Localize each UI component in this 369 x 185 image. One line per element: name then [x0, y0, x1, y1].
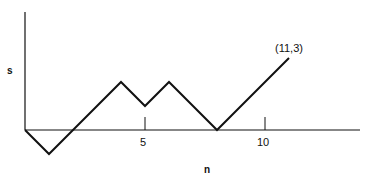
- y-axis-label: s: [7, 65, 13, 76]
- x-axis-label: n: [204, 164, 210, 175]
- endpoint-annotation: (11,3): [275, 42, 303, 54]
- chart-canvas: [0, 0, 369, 185]
- x-tick-label-10: 10: [257, 136, 269, 148]
- walk-line: [25, 58, 289, 154]
- x-tick-label-5: 5: [140, 136, 146, 148]
